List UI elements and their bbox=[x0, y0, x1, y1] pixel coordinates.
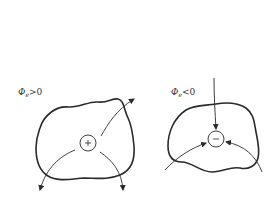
flux-label-negative: Φe<0 bbox=[171, 87, 195, 98]
field-line-out-upper-right bbox=[101, 99, 134, 136]
flux-relation: <0 bbox=[182, 87, 195, 97]
field-line-out-lower-right bbox=[100, 152, 123, 190]
diagram-canvas bbox=[0, 0, 276, 202]
flux-label-positive: Φe>0 bbox=[18, 87, 42, 98]
panel-positive bbox=[36, 99, 134, 190]
flux-relation: >0 bbox=[29, 87, 42, 97]
field-line-out-lower-left bbox=[40, 150, 75, 190]
